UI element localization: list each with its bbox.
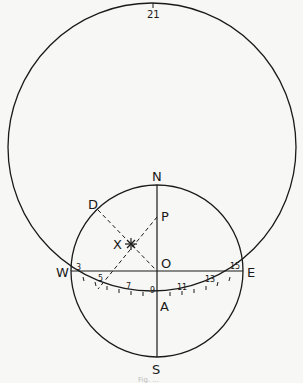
arc-tick-11: 11 [177,283,187,292]
dashed-line-P [98,217,157,289]
label-S: S [152,362,160,377]
label-W: W [56,265,69,280]
outer-circle [8,3,296,291]
arc-tick-7: 7 [126,282,131,291]
arc-tick-9: 9 [150,286,155,295]
label-X: X [113,237,122,252]
label-P: P [161,209,169,224]
outer-circle-label: 21 [147,9,160,20]
arc-tick-3: 3 [76,263,81,272]
arc-tick-5: 5 [98,274,103,283]
label-E: E [247,265,255,280]
star-icon [125,238,137,250]
figure-caption: Fig. ... [138,376,159,383]
label-A: A [160,299,169,314]
arc-tick-15: 15 [230,262,240,271]
label-D: D [88,197,98,212]
diagram-canvas: 21 3 5 7 9 11 13 15 N S E W O P D [0,0,303,383]
arc-tick-13: 13 [205,275,215,284]
label-N: N [152,169,162,184]
label-O: O [161,256,171,271]
